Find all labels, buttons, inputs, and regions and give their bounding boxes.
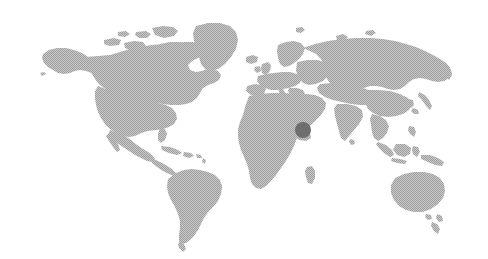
region-svalbard <box>296 27 305 33</box>
region-aleutian-islands <box>40 72 46 76</box>
region-puerto-rico <box>196 154 202 158</box>
region-philippines <box>408 126 416 137</box>
region-arctic-islet-b <box>135 31 151 38</box>
region-greenland <box>193 23 238 71</box>
region-great-britain <box>261 62 271 75</box>
region-australia <box>391 172 445 212</box>
region-iceland <box>246 55 258 64</box>
region-sri-lanka <box>349 139 355 145</box>
location-marker-united-arab-emirates[interactable] <box>295 122 311 138</box>
region-java <box>391 158 407 164</box>
region-east-asia <box>364 90 412 117</box>
region-southeast-asia <box>370 114 389 141</box>
region-borneo <box>393 144 411 157</box>
world-map-container <box>0 0 488 259</box>
region-new-guinea <box>421 155 444 166</box>
region-lesser-antilles <box>202 158 206 164</box>
region-japan-south <box>411 108 419 114</box>
region-cuba <box>161 146 182 155</box>
region-ellesmere-island <box>152 26 178 38</box>
region-tasmania <box>425 214 432 220</box>
region-japan <box>418 92 432 110</box>
region-russia <box>303 38 452 91</box>
region-central-america <box>152 158 176 176</box>
region-arctic-islet-c <box>118 31 130 37</box>
region-florida <box>158 128 167 143</box>
region-new-zealand-south <box>431 222 440 234</box>
region-arctic-islet-a <box>104 38 121 46</box>
world-map-graphic <box>0 0 488 259</box>
region-new-zealand-north <box>436 214 443 222</box>
region-hispaniola <box>183 152 194 158</box>
region-india <box>334 104 363 141</box>
region-madagascar <box>305 166 315 184</box>
region-severnaya-zemlya <box>365 30 376 36</box>
region-sumatra <box>376 142 394 157</box>
region-sulawesi <box>412 146 420 157</box>
region-ireland <box>254 66 261 73</box>
